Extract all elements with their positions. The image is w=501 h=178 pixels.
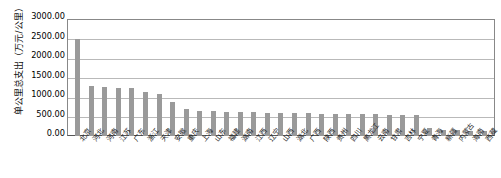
y-axis-tick-labels: 3000.00 2500.00 2000.00 1500.00 1000.00 … [18, 12, 65, 142]
bar-slot [328, 20, 342, 136]
bar-slot [206, 20, 220, 136]
bar [75, 39, 80, 136]
bar-slot [396, 20, 410, 136]
bar-slot [369, 20, 383, 136]
x-label-slot: 河南 [98, 137, 112, 178]
x-label-slot: 山西 [274, 137, 288, 178]
bar-slot [234, 20, 248, 136]
x-label-slot: 江苏 [112, 137, 126, 178]
bar-slot [85, 20, 99, 136]
x-label-slot: 江西 [247, 137, 261, 178]
bar-slot [315, 20, 329, 136]
x-label-slot: 山东 [206, 137, 220, 178]
bar-slot [288, 20, 302, 136]
x-label-slot: 内蒙古 [450, 137, 464, 178]
bar-slot [152, 20, 166, 136]
y-tick-label: 0.00 [18, 129, 65, 138]
y-tick-label: 2000.00 [18, 51, 65, 60]
x-label-slot: 吉林 [396, 137, 410, 178]
y-tick-label: 1000.00 [18, 90, 65, 99]
x-label-slot: 辽宁 [261, 137, 275, 178]
bar-series [68, 20, 494, 136]
x-label-slot: 西藏 [477, 137, 491, 178]
x-axis-tick-labels: 北京河北河南江苏广东浙江天津安徽重庆上海山东福建湖南江西辽宁山西湖北广西陕西贵州… [68, 137, 494, 178]
bar-slot [450, 20, 464, 136]
x-label-slot: 贵州 [328, 137, 342, 178]
x-label-slot: 宁夏 [410, 137, 424, 178]
x-label-slot: 广东 [125, 137, 139, 178]
x-label-slot: 黑龙江 [355, 137, 369, 178]
x-label-slot: 新疆 [437, 137, 451, 178]
bar-slot [301, 20, 315, 136]
x-label-slot: 湖北 [288, 137, 302, 178]
bar-slot [423, 20, 437, 136]
bar-slot [125, 20, 139, 136]
x-label-slot: 陕西 [315, 137, 329, 178]
bar-slot [220, 20, 234, 136]
bar-slot [166, 20, 180, 136]
bar-slot [437, 20, 451, 136]
x-label-slot: 湖南 [234, 137, 248, 178]
bar-slot [383, 20, 397, 136]
bar-slot [464, 20, 478, 136]
x-label-slot: 甘肃 [383, 137, 397, 178]
bar-slot [71, 20, 85, 136]
y-tick-label: 3000.00 [18, 12, 65, 21]
y-tick-label: 2500.00 [18, 32, 65, 41]
bar-slot [261, 20, 275, 136]
x-label-slot: 河北 [85, 137, 99, 178]
bar-slot [355, 20, 369, 136]
x-label-slot: 云南 [369, 137, 383, 178]
x-label-slot: 海南 [464, 137, 478, 178]
bar-slot [274, 20, 288, 136]
bar-slot [98, 20, 112, 136]
bar-slot [247, 20, 261, 136]
bar-slot [410, 20, 424, 136]
x-label-slot: 四川 [342, 137, 356, 178]
x-label-slot: 青海 [423, 137, 437, 178]
y-tick-label: 500.00 [18, 110, 65, 119]
x-label-slot: 重庆 [179, 137, 193, 178]
x-label-slot: 天津 [152, 137, 166, 178]
bar-slot [112, 20, 126, 136]
bar-slot [477, 20, 491, 136]
x-label-slot: 上海 [193, 137, 207, 178]
x-label-slot: 广西 [301, 137, 315, 178]
x-label-slot: 安徽 [166, 137, 180, 178]
x-label-slot: 北京 [71, 137, 85, 178]
bar-slot [342, 20, 356, 136]
bar-slot [139, 20, 153, 136]
bar-slot [193, 20, 207, 136]
y-tick-label: 1500.00 [18, 71, 65, 80]
x-label-slot: 浙江 [139, 137, 153, 178]
bar-chart: 单公里总支出（万元/公里） 3000.00 2500.00 2000.00 15… [0, 0, 501, 178]
x-label-slot: 福建 [220, 137, 234, 178]
bar-slot [179, 20, 193, 136]
